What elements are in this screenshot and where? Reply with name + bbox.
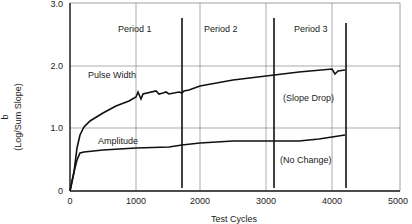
y-tick-labels: 0 1.0 2.0 3.0 [50,0,63,196]
svg-text:3000: 3000 [256,196,276,206]
y-axis-symbol: b [0,114,10,119]
svg-text:1.0: 1.0 [50,123,63,133]
annotation-slope-drop: (Slope Drop) [283,93,334,103]
svg-text:0: 0 [67,196,72,206]
annotation-period-2: Period 2 [204,24,238,34]
svg-text:3.0: 3.0 [50,0,63,9]
svg-text:4000: 4000 [322,196,342,206]
annotation-period-1: Period 1 [118,24,152,34]
svg-text:0: 0 [58,186,63,196]
annotation-period-3: Period 3 [294,24,328,34]
y-axis-title: (Log/Sum Slope) [13,83,23,151]
svg-text:2.0: 2.0 [50,61,63,71]
x-axis-title: Test Cycles [211,214,258,224]
annotation-pulse-width: Pulse Width [88,70,136,80]
chart: 0 1000 2000 3000 4000 5000 0 1.0 2.0 3.0… [0,0,412,224]
annotation-no-change: (No Change) [280,155,332,165]
annotation-amplitude: Amplitude [98,136,138,146]
series-pulse-width [70,69,345,191]
svg-text:1000: 1000 [126,196,146,206]
svg-text:2000: 2000 [190,196,210,206]
svg-text:5000: 5000 [388,196,408,206]
x-tick-labels: 0 1000 2000 3000 4000 5000 [67,196,408,206]
